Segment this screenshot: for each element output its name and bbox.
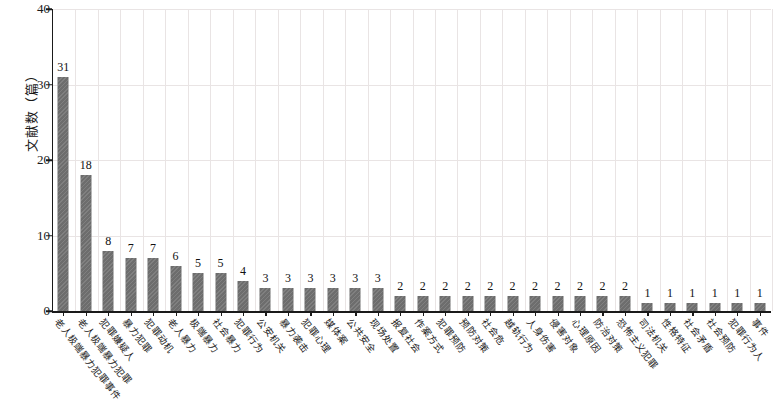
- bar-slot: 7: [119, 9, 141, 311]
- x-axis-tick-mark: [625, 311, 626, 316]
- x-axis-tick-label: 事件: [749, 318, 769, 340]
- x-axis-tick-mark: [445, 311, 446, 316]
- bar: [552, 296, 563, 311]
- bar-value-label: 2: [555, 279, 561, 294]
- bar-slot: 7: [142, 9, 164, 311]
- bar-value-label: 2: [599, 279, 605, 294]
- y-axis-tick-label: 40: [0, 1, 50, 17]
- bar-value-label: 2: [420, 279, 426, 294]
- x-axis-tick-mark: [288, 311, 289, 316]
- x-axis-tick-mark: [513, 311, 514, 316]
- bar-value-label: 7: [150, 241, 156, 256]
- y-axis-tick-label: 30: [0, 77, 50, 93]
- bar-slot: 3: [322, 9, 344, 311]
- vertical-gridline: [772, 9, 773, 311]
- bar-slot: 3: [254, 9, 276, 311]
- bar: [237, 281, 248, 311]
- x-axis-tick-mark: [63, 311, 64, 316]
- x-axis-tick-mark: [490, 311, 491, 316]
- bar-value-label: 2: [465, 279, 471, 294]
- x-axis-tick-mark: [265, 311, 266, 316]
- bar-value-label: 2: [510, 279, 516, 294]
- x-axis-line: [52, 311, 771, 313]
- bar-slot: 1: [749, 9, 771, 311]
- bar: [148, 258, 159, 311]
- bar-value-label: 4: [240, 264, 246, 279]
- bar: [687, 303, 698, 311]
- bar-value-label: 8: [105, 234, 111, 249]
- bar: [440, 296, 451, 311]
- x-axis-tick-mark: [692, 311, 693, 316]
- bar: [282, 288, 293, 311]
- x-axis-tick-mark: [580, 311, 581, 316]
- bar-slot: 6: [164, 9, 186, 311]
- x-axis-tick-mark: [86, 311, 87, 316]
- bar-slot: 2: [524, 9, 546, 311]
- bar-value-label: 2: [487, 279, 493, 294]
- bar-value-label: 3: [352, 271, 358, 286]
- bar-value-label: 2: [577, 279, 583, 294]
- bar-value-label: 1: [734, 286, 740, 301]
- bar: [215, 273, 226, 311]
- x-axis-tick-mark: [355, 311, 356, 316]
- bar-value-label: 6: [173, 249, 179, 264]
- bar-slot: 5: [187, 9, 209, 311]
- x-axis-tick-mark: [602, 311, 603, 316]
- bar-value-label: 1: [757, 286, 763, 301]
- bar-slot: 8: [97, 9, 119, 311]
- bar: [575, 296, 586, 311]
- bar-value-label: 3: [375, 271, 381, 286]
- x-axis-tick-mark: [221, 311, 222, 316]
- bar-value-label: 3: [330, 271, 336, 286]
- bar: [193, 273, 204, 311]
- x-axis-labels: 老人极端暴力犯罪事件老人极端暴力犯罪犯罪嫌疑人暴力犯罪犯罪动机老人暴力极端暴力社…: [52, 318, 771, 392]
- bar-slot: 2: [569, 9, 591, 311]
- x-axis-tick-mark: [647, 311, 648, 316]
- x-axis-tick-mark: [131, 311, 132, 316]
- x-axis-tick-mark: [108, 311, 109, 316]
- bar: [395, 296, 406, 311]
- bar-value-label: 1: [712, 286, 718, 301]
- bar: [507, 296, 518, 311]
- bar-slot: 1: [726, 9, 748, 311]
- bar-slot: 2: [501, 9, 523, 311]
- bar: [103, 251, 114, 311]
- bar: [664, 303, 675, 311]
- bars-layer: 3118877655433333322222222222111111: [52, 9, 771, 311]
- bar: [417, 296, 428, 311]
- bar-value-label: 1: [667, 286, 673, 301]
- bar-value-label: 31: [57, 60, 69, 75]
- y-axis-tick-label: 10: [0, 228, 50, 244]
- bar: [58, 77, 69, 311]
- x-axis-tick-mark: [670, 311, 671, 316]
- bar: [485, 296, 496, 311]
- bar-slot: 1: [659, 9, 681, 311]
- x-axis-tick-mark: [737, 311, 738, 316]
- bar-slot: 2: [412, 9, 434, 311]
- bar: [327, 288, 338, 311]
- bar-slot: 3: [299, 9, 321, 311]
- bar: [350, 288, 361, 311]
- bar: [597, 296, 608, 311]
- bar-slot: 2: [389, 9, 411, 311]
- x-axis-tick-mark: [310, 311, 311, 316]
- y-axis-tick-label: 20: [0, 152, 50, 168]
- bar-slot: 3: [367, 9, 389, 311]
- bar: [125, 258, 136, 311]
- x-axis-tick-mark: [423, 311, 424, 316]
- bar: [462, 296, 473, 311]
- bar: [754, 303, 765, 311]
- bar: [619, 296, 630, 311]
- y-axis-tick-label: 0: [0, 303, 50, 319]
- x-axis-tick-mark: [378, 311, 379, 316]
- bar-slot: 1: [704, 9, 726, 311]
- bar-value-label: 2: [397, 279, 403, 294]
- bar-slot: 3: [344, 9, 366, 311]
- bar-slot: 4: [232, 9, 254, 311]
- x-axis-tick-mark: [468, 311, 469, 316]
- bar: [305, 288, 316, 311]
- x-axis-tick-mark: [715, 311, 716, 316]
- bar: [170, 266, 181, 311]
- x-axis-tick-mark: [153, 311, 154, 316]
